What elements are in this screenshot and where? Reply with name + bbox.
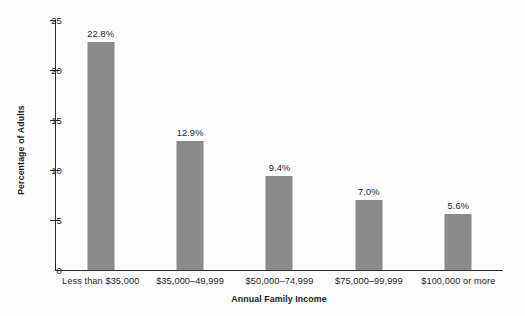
x-tick-label-2: $50,000–74,999	[235, 276, 324, 286]
bar-value-label-4: 5.6%	[447, 201, 469, 211]
x-axis-title: Annual Family Income	[55, 294, 503, 304]
bar-value-label-3: 7.0%	[358, 187, 380, 197]
bar-value-label-2: 9.4%	[269, 163, 291, 173]
x-tick-label-1: $35,000–49,999	[145, 276, 234, 286]
bar-chart: Percentage of Adults 0 5 10 15 20 25 22.…	[0, 0, 525, 316]
bar-2	[266, 176, 293, 270]
x-axis-line	[55, 270, 503, 271]
bar-slot-0: 22.8%	[56, 20, 145, 270]
bar-slot-4: 5.6%	[414, 20, 503, 270]
bar-1	[177, 141, 204, 270]
bar-value-label-0: 22.8%	[87, 29, 114, 39]
y-axis-title: Percentage of Adults	[16, 80, 26, 220]
bar-slot-3: 7.0%	[324, 20, 413, 270]
x-tick-label-3: $75,000–99,999	[324, 276, 413, 286]
x-tick-label-0: Less than $35,000	[56, 276, 145, 286]
bar-slot-1: 12.9%	[145, 20, 234, 270]
bar-value-label-1: 12.9%	[177, 128, 204, 138]
plot-area: 22.8% 12.9% 9.4% 7.0% 5.6%	[56, 20, 503, 270]
bar-4	[445, 214, 472, 270]
bar-slot-2: 9.4%	[235, 20, 324, 270]
bar-0	[87, 42, 114, 270]
x-tick-label-4: $100,000 or more	[414, 276, 503, 286]
bar-3	[355, 200, 382, 270]
